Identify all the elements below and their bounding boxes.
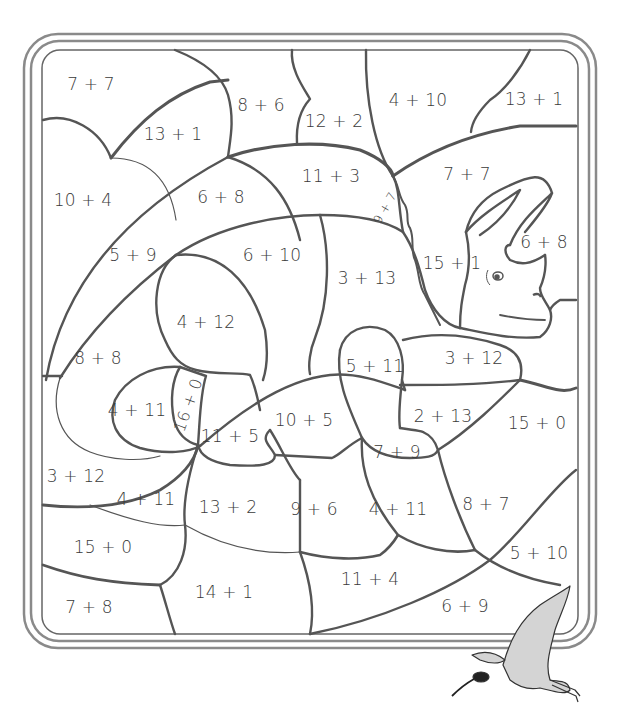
region-label[interactable]: 6 + 8 (520, 232, 568, 252)
region-label[interactable]: 11 + 3 (302, 166, 361, 186)
region-label[interactable]: 4 + 11 (369, 499, 428, 519)
region-label[interactable]: 3 + 12 (445, 348, 504, 368)
region-label[interactable]: 6 + 9 (441, 596, 489, 616)
region-label[interactable]: 15 + 0 (74, 537, 133, 557)
eye-icon (487, 270, 503, 285)
region-label[interactable]: 11 + 4 (341, 569, 400, 589)
region-label[interactable]: 12 + 2 (305, 111, 364, 131)
region-label[interactable]: 5 + 11 (346, 356, 405, 376)
region-label[interactable]: 3 + 12 (47, 466, 106, 486)
region-label[interactable]: 8 + 6 (237, 95, 285, 115)
region-label[interactable]: 14 + 1 (195, 582, 254, 602)
region-label[interactable]: 15 + 0 (508, 413, 567, 433)
region-label[interactable]: 4 + 12 (177, 312, 236, 332)
region-label[interactable]: 10 + 4 (54, 190, 113, 210)
region-label[interactable]: 4 + 10 (389, 90, 448, 110)
region-label[interactable]: 8 + 8 (74, 348, 122, 368)
region-label[interactable]: 13 + 1 (144, 124, 203, 144)
region-label[interactable]: 15 + 1 (423, 253, 482, 273)
region-label[interactable]: 7 + 8 (65, 597, 113, 617)
region-label[interactable]: 10 + 5 (275, 410, 334, 430)
region-label[interactable]: 11 + 5 (201, 426, 260, 446)
region-label[interactable]: 5 + 9 (109, 245, 157, 265)
region-label[interactable]: 2 + 13 (414, 406, 473, 426)
region-label[interactable]: 7 + 7 (67, 74, 115, 94)
region-label[interactable]: 4 + 11 (108, 400, 167, 420)
region-label[interactable]: 7 + 9 (373, 442, 421, 462)
nostril-icon (533, 294, 541, 297)
region-label[interactable]: 5 + 10 (510, 543, 569, 563)
region-label[interactable]: 13 + 2 (199, 497, 258, 517)
region-label[interactable]: 7 + 7 (443, 164, 491, 184)
region-label[interactable]: 9 + 6 (290, 499, 338, 519)
worksheet: 7 + 713 + 18 + 612 + 24 + 1013 + 110 + 4… (0, 0, 620, 709)
region-label[interactable]: 3 + 13 (338, 268, 397, 288)
region-label[interactable]: 8 + 7 (462, 494, 510, 514)
region-label[interactable]: 6 + 8 (197, 187, 245, 207)
region-label[interactable]: 6 + 10 (243, 245, 302, 265)
region-label[interactable]: 4 + 11 (117, 489, 176, 509)
region-label[interactable]: 13 + 1 (505, 89, 564, 109)
